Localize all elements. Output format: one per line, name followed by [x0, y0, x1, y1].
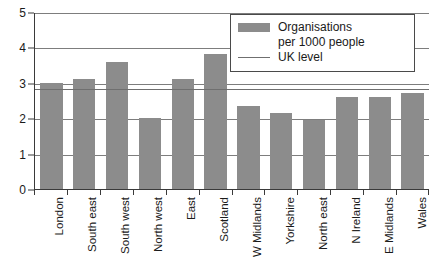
y-tick-label: 3 — [19, 78, 26, 90]
bar-chart: 012345 LondonSouth eastSouth westNorth w… — [0, 0, 437, 271]
x-tick-mark — [297, 190, 298, 195]
x-tick-slot — [232, 190, 265, 196]
bar[interactable] — [270, 113, 292, 189]
x-axis-label: East — [186, 197, 198, 220]
bar-slot — [133, 13, 166, 189]
legend-label-block: Organisations per 1000 people — [278, 20, 365, 50]
x-label-slot: Scotland — [199, 197, 232, 271]
legend-label-uk-level: UK level — [278, 50, 323, 65]
x-label-slot: East — [166, 197, 199, 271]
bar[interactable] — [336, 97, 358, 189]
x-tick-slot — [396, 190, 429, 196]
y-tick-label: 1 — [19, 149, 26, 161]
bar[interactable] — [139, 118, 161, 189]
x-tick-mark — [232, 190, 233, 195]
x-tick-mark — [133, 190, 134, 195]
x-tick-slot — [67, 190, 100, 196]
y-tick-label: 5 — [19, 7, 26, 19]
x-tick-slot — [330, 190, 363, 196]
x-tick-mark — [264, 190, 265, 195]
x-tick-slot — [133, 190, 166, 196]
legend-label-line2: per 1000 people — [278, 35, 365, 50]
x-axis-label: North west — [153, 197, 165, 252]
x-tick-slot — [166, 190, 199, 196]
x-label-slot: South east — [67, 197, 100, 271]
y-axis: 012345 — [0, 0, 34, 271]
x-axis-labels: LondonSouth eastSouth westNorth westEast… — [34, 197, 429, 271]
x-label-slot: North east — [297, 197, 330, 271]
bar[interactable] — [106, 62, 128, 189]
x-axis-label: Scotland — [219, 197, 231, 242]
x-tick-mark — [199, 190, 200, 195]
bar[interactable] — [172, 79, 194, 189]
x-tick-mark — [166, 190, 167, 195]
bar[interactable] — [73, 79, 95, 189]
x-label-slot: E Midlands — [363, 197, 396, 271]
bar[interactable] — [369, 97, 391, 189]
bar-slot — [199, 13, 232, 189]
x-tick-slot — [100, 190, 133, 196]
chart-legend: Organisations per 1000 people UK level — [230, 14, 415, 72]
legend-bar-swatch — [238, 23, 270, 32]
bar-slot — [68, 13, 101, 189]
x-label-slot: Wales — [396, 197, 429, 271]
x-axis-label: South east — [87, 197, 99, 252]
y-tick-label: 2 — [19, 113, 26, 125]
x-tick-mark — [330, 190, 331, 195]
bar[interactable] — [40, 83, 62, 189]
bar-slot — [35, 13, 68, 189]
x-tick-slot — [297, 190, 330, 196]
bar-slot — [166, 13, 199, 189]
legend-line-swatch — [238, 53, 270, 62]
legend-label-line1: Organisations — [278, 20, 365, 35]
x-label-slot: South west — [100, 197, 133, 271]
y-tick-label: 4 — [19, 42, 26, 54]
x-axis-label: Wales — [417, 197, 429, 229]
x-label-slot: N Ireland — [330, 197, 363, 271]
x-tick-mark — [100, 190, 101, 195]
x-axis-label: South west — [120, 197, 132, 254]
x-tick-slot — [34, 190, 67, 196]
x-tick-slot — [264, 190, 297, 196]
legend-entry-uk-level: UK level — [238, 50, 407, 65]
x-axis-label: N Ireland — [351, 197, 363, 244]
uk-level-reference-line — [35, 89, 429, 90]
bar[interactable] — [303, 120, 325, 189]
x-tick-mark — [396, 190, 397, 195]
x-axis-end-tick — [428, 190, 429, 195]
x-tick-slot — [363, 190, 396, 196]
x-label-slot: London — [34, 197, 67, 271]
bar[interactable] — [237, 106, 259, 189]
y-tick-label: 0 — [19, 184, 26, 196]
x-axis-label: W Midlands — [252, 197, 264, 257]
legend-entry-organisations: Organisations per 1000 people — [238, 20, 407, 50]
x-tick-mark — [67, 190, 68, 195]
x-label-slot: North west — [133, 197, 166, 271]
x-axis-label: E Midlands — [384, 197, 396, 254]
x-label-slot: Yorkshire — [264, 197, 297, 271]
x-axis-label: North east — [318, 197, 330, 250]
bar-slot — [101, 13, 134, 189]
x-tick-mark — [363, 190, 364, 195]
x-axis-label: London — [54, 197, 66, 235]
x-label-slot: W Midlands — [232, 197, 265, 271]
x-tick-slot — [199, 190, 232, 196]
bar[interactable] — [401, 93, 423, 189]
x-axis-label: Yorkshire — [285, 197, 297, 245]
x-axis-ticks — [34, 190, 429, 196]
bar[interactable] — [204, 54, 226, 189]
x-tick-mark — [34, 190, 35, 195]
